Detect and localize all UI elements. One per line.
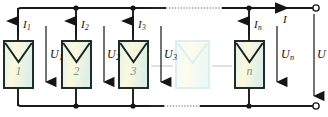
current-label-i1: I1 — [23, 19, 31, 32]
current-label-i3: I3 — [138, 19, 146, 32]
circuit-diagram-canvas: 1 2 3 n I1 I2 I3 In I U1 U2 U3 Un U — [0, 0, 328, 117]
current-label-in: In — [254, 19, 262, 32]
voltage-label-u3: U3 — [164, 48, 177, 62]
voltage-label-u2: U2 — [107, 48, 120, 62]
terminal-top-right[interactable] — [313, 5, 319, 11]
device-2-label: 2 — [62, 64, 91, 79]
voltage-label-u1: U1 — [50, 48, 63, 62]
device-ghost — [176, 41, 209, 88]
voltage-label-un: Un — [281, 48, 294, 62]
top-rail — [18, 8, 316, 14]
current-arrows — [18, 21, 249, 36]
junction-dots — [73, 5, 251, 108]
terminal-bottom-right[interactable] — [313, 103, 319, 109]
voltage-label-total: U — [317, 48, 326, 62]
current-label-total: I — [283, 14, 287, 27]
device-1-label: 1 — [4, 64, 33, 79]
device-3-label: 3 — [119, 64, 148, 79]
current-label-i2: I2 — [81, 19, 89, 32]
device-n-label: n — [235, 64, 264, 79]
